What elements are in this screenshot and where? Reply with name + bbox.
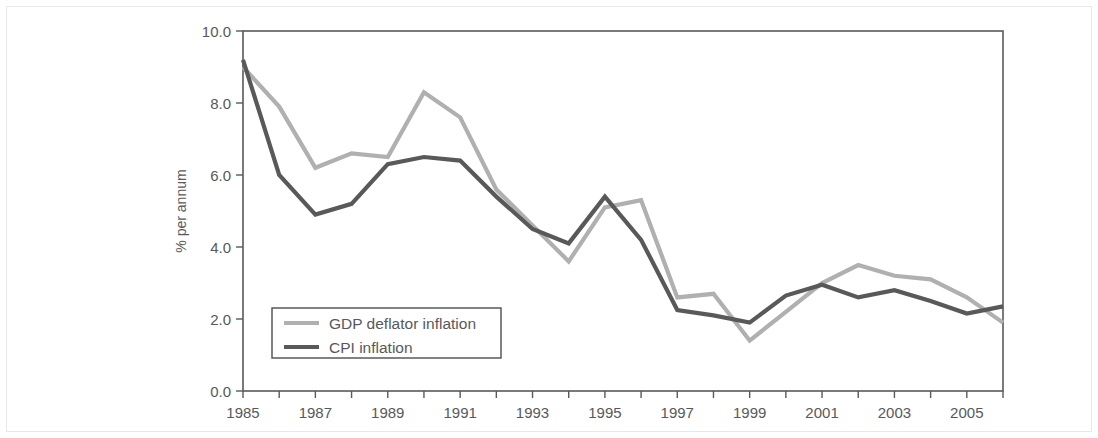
series-line-cpi-inflation [243,60,1003,323]
y-tick-label-10.0: 10.0 [202,23,231,40]
x-tick-label-2003: 2003 [878,404,911,421]
x-tick-label-1989: 1989 [371,404,404,421]
y-tick-label-8.0: 8.0 [210,95,231,112]
chart-figure: 0.02.04.06.08.010.0% per annum1985198719… [0,0,1098,438]
x-tick-label-1991: 1991 [443,404,476,421]
x-tick-label-2005: 2005 [950,404,983,421]
series-line-gdp-deflator-inflation [243,67,1003,341]
y-axis-title: % per annum [173,169,189,252]
x-tick-label-2001: 2001 [805,404,838,421]
y-tick-label-2.0: 2.0 [210,311,231,328]
x-tick-label-1985: 1985 [226,404,259,421]
x-tick-label-1993: 1993 [516,404,549,421]
x-tick-label-1997: 1997 [661,404,694,421]
line-chart: 0.02.04.06.08.010.0% per annum1985198719… [0,0,1098,438]
x-tick-label-1987: 1987 [299,404,332,421]
y-tick-label-6.0: 6.0 [210,167,231,184]
legend-label-0: GDP deflator inflation [329,315,476,332]
x-tick-label-1999: 1999 [733,404,766,421]
y-tick-label-0.0: 0.0 [210,383,231,400]
y-tick-label-4.0: 4.0 [210,239,231,256]
legend-label-1: CPI inflation [329,339,413,356]
x-tick-label-1995: 1995 [588,404,621,421]
